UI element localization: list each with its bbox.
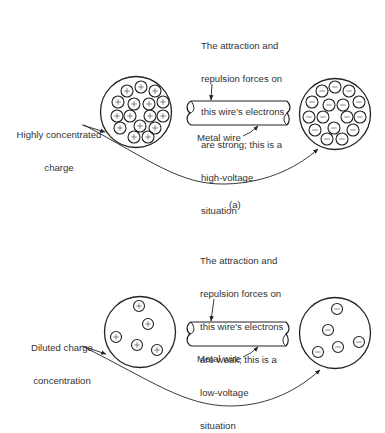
- callout-line: situation: [201, 205, 284, 216]
- label-line: Highly concentrated: [14, 129, 104, 140]
- negative-charges: [313, 304, 365, 358]
- positive-charges: [111, 81, 169, 143]
- label-line: Diluted charge: [22, 342, 102, 353]
- callout-text-high-voltage: The attraction and repulsion forces on t…: [201, 18, 284, 227]
- label-highly-concentrated-charge: Highly concentrated charge: [14, 107, 104, 184]
- label-diluted-charge-concentration: Diluted charge concentration: [22, 320, 102, 397]
- callout-line: repulsion forces on: [201, 73, 284, 84]
- callout-text-low-voltage: The attraction and repulsion forces on t…: [200, 233, 283, 433]
- callout-line: low-voltage: [200, 387, 283, 398]
- callout-line: repulsion forces on: [200, 288, 283, 299]
- label-line: charge: [14, 162, 104, 173]
- positive-charges: [111, 301, 163, 356]
- callout-line: The attraction and: [200, 255, 283, 266]
- label-metal-wire: Metal wire: [197, 353, 241, 364]
- negative-charge-region: [300, 79, 371, 150]
- caption-a: (a): [229, 199, 241, 210]
- negative-charges: [303, 81, 366, 145]
- callout-line: this wire's electrons: [201, 106, 284, 117]
- label-line: concentration: [22, 375, 102, 386]
- callout-line: high-voltage: [201, 172, 284, 183]
- negative-charge-region: [300, 298, 371, 369]
- callout-line: situation: [200, 420, 283, 431]
- callout-line: this wire's electrons: [200, 321, 283, 332]
- label-metal-wire: Metal wire: [197, 132, 241, 143]
- callout-line: The attraction and: [201, 40, 284, 51]
